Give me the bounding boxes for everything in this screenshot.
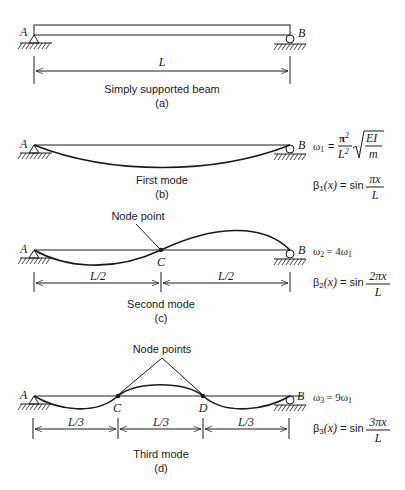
label-b: B <box>298 243 306 257</box>
svg-text:β3(x)= sin: β3(x)= sin <box>313 421 364 436</box>
node-leader-line <box>118 358 162 395</box>
ground-hatch-icon <box>18 404 52 410</box>
tag-b: (b) <box>155 188 168 200</box>
mode-shape-curve <box>34 385 290 409</box>
ground-hatch-icon <box>18 43 52 49</box>
caption-c: Second mode <box>127 298 195 310</box>
roller-support-icon <box>286 250 294 258</box>
omega-2-formula: ω2= 4ω1 <box>313 245 352 259</box>
svg-text:m: m <box>369 147 378 161</box>
node-leader-line <box>136 224 160 249</box>
mode-shape-curve <box>34 145 290 168</box>
label-a: A <box>19 137 28 151</box>
ground-hatch-icon <box>18 153 52 159</box>
caption-a: Simply supported beam <box>104 83 220 95</box>
svg-text:π2: π2 <box>339 131 349 144</box>
label-a: A <box>19 242 28 256</box>
beta-3-formula: β3(x)= sin 3πx L <box>313 415 390 445</box>
svg-text:ω3= 9ω1: ω3= 9ω1 <box>313 391 352 405</box>
svg-text:ω1: ω1 <box>313 140 324 154</box>
svg-text:3πx: 3πx <box>368 415 387 429</box>
svg-text:=: = <box>328 140 334 152</box>
tag-d: (d) <box>154 462 167 474</box>
node-point-c <box>159 248 163 252</box>
ground-hatch-icon <box>274 259 306 265</box>
label-half-length: L/2 <box>217 269 234 283</box>
panel-a-simply-supported-beam: A B L Simply supported beam (a) <box>18 25 306 109</box>
roller-support-icon <box>286 396 294 404</box>
caption-d: Third mode <box>133 448 189 460</box>
svg-text:β1(x)= sin: β1(x)= sin <box>313 178 364 193</box>
pin-support-icon <box>29 35 39 43</box>
node-points-label: Node points <box>133 343 192 355</box>
caption-b: First mode <box>136 174 188 186</box>
svg-text:EI: EI <box>365 131 378 145</box>
label-a: A <box>19 25 28 39</box>
node-point-c <box>116 394 120 398</box>
roller-support-icon <box>286 145 294 153</box>
svg-text:2πx: 2πx <box>369 269 387 283</box>
label-third-length: L/3 <box>152 415 169 429</box>
beam-mode-shapes-diagram: A B L Simply supported beam (a) A B Firs… <box>0 0 405 490</box>
label-c: C <box>157 255 166 269</box>
svg-text:L: L <box>374 285 382 299</box>
beam-body <box>34 25 290 35</box>
panel-c-second-mode: Node point A B C L/2 L/2 Second mode (c)… <box>18 210 390 324</box>
svg-text:L: L <box>371 188 379 202</box>
beta-2-formula: β2(x)= sin 2πx L <box>313 269 390 299</box>
label-a: A <box>19 388 28 402</box>
label-b: B <box>297 389 305 403</box>
beta-1-formula: β1(x)= sin πx L <box>313 172 384 202</box>
svg-text:πx: πx <box>369 172 381 186</box>
svg-text:L: L <box>374 431 382 445</box>
ground-hatch-icon <box>274 405 306 411</box>
omega-1-formula: ω1 = π2 L2 EI m <box>313 131 384 161</box>
ground-hatch-icon <box>18 258 52 264</box>
label-b: B <box>298 138 306 152</box>
label-third-length: L/3 <box>67 415 84 429</box>
label-d: D <box>198 401 208 415</box>
label-c: C <box>113 401 122 415</box>
tag-c: (c) <box>155 312 168 324</box>
panel-b-first-mode: A B First mode (b) ω1 = π2 L2 EI m β1(x)… <box>18 131 384 202</box>
svg-text:L2: L2 <box>337 147 349 161</box>
ground-hatch-icon <box>274 44 306 50</box>
svg-text:ω2= 4ω1: ω2= 4ω1 <box>313 245 352 259</box>
node-point-d <box>201 394 205 398</box>
label-third-length: L/3 <box>237 415 254 429</box>
tag-a: (a) <box>155 97 168 109</box>
panel-d-third-mode: Node points A B C D L/3 L/3 L/3 Third mo… <box>18 343 390 474</box>
roller-support-icon <box>286 35 294 43</box>
ground-hatch-icon <box>274 154 306 160</box>
label-b: B <box>298 26 306 40</box>
label-length: L <box>158 55 166 69</box>
omega-3-formula: ω3= 9ω1 <box>313 391 352 405</box>
node-leader-line <box>162 358 203 395</box>
label-half-length: L/2 <box>89 269 106 283</box>
svg-text:β2(x)= sin: β2(x)= sin <box>313 275 364 290</box>
node-point-label: Node point <box>111 210 164 222</box>
